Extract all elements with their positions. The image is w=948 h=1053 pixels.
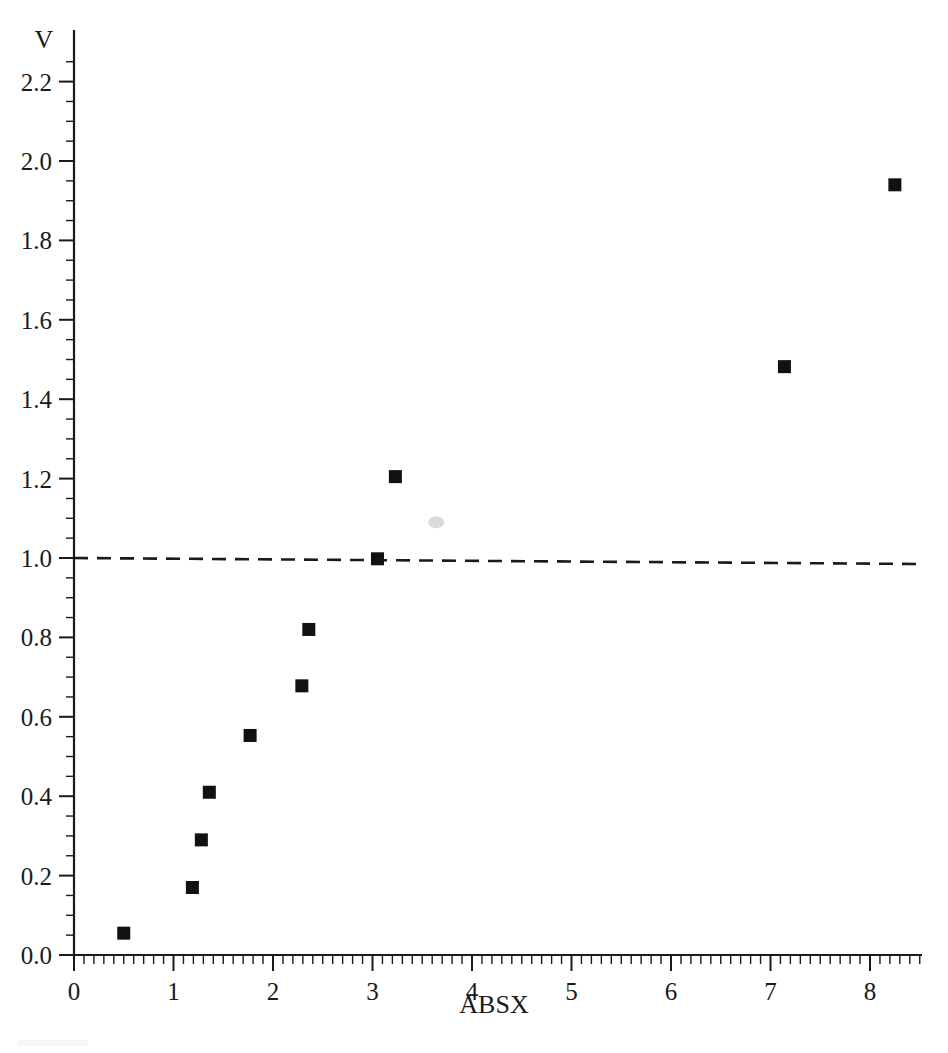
reference-line-1.0 bbox=[74, 558, 922, 564]
scan-smudge bbox=[428, 516, 444, 528]
data-point bbox=[371, 552, 384, 565]
y-tick-label: 2.0 bbox=[21, 148, 52, 175]
data-point bbox=[203, 786, 216, 799]
y-tick-label: 0.2 bbox=[21, 863, 52, 890]
y-tick-label: 0.4 bbox=[21, 783, 53, 810]
data-point bbox=[302, 623, 315, 636]
data-point bbox=[186, 881, 199, 894]
y-tick-label: 0.6 bbox=[21, 704, 52, 731]
plot-canvas: 0.00.20.40.60.81.01.21.41.61.82.02.2 012… bbox=[0, 0, 948, 1053]
x-tick-label: 1 bbox=[167, 978, 180, 1005]
y-tick-label: 1.6 bbox=[21, 307, 52, 334]
scatter-plot-figure: 0.00.20.40.60.81.01.21.41.61.82.02.2 012… bbox=[0, 0, 948, 1053]
x-tick-label: 0 bbox=[68, 978, 81, 1005]
data-point bbox=[244, 729, 257, 742]
y-axis-title: V bbox=[35, 25, 54, 54]
page-edge-artifact bbox=[18, 1040, 88, 1046]
y-tick-label: 1.2 bbox=[21, 466, 52, 493]
x-tick-label: 8 bbox=[864, 978, 877, 1005]
data-point bbox=[888, 178, 901, 191]
y-tick-label: 1.8 bbox=[21, 227, 52, 254]
x-tick-label: 6 bbox=[665, 978, 678, 1005]
data-points bbox=[117, 178, 901, 939]
data-point bbox=[195, 833, 208, 846]
reference-line bbox=[74, 558, 922, 564]
data-point bbox=[295, 679, 308, 692]
x-tick-label: 5 bbox=[565, 978, 578, 1005]
x-tick-label: 2 bbox=[267, 978, 280, 1005]
scan-artifacts bbox=[18, 516, 444, 1046]
y-tick-label: 2.2 bbox=[21, 69, 52, 96]
x-tick-label: 3 bbox=[366, 978, 379, 1005]
x-tick-label: 7 bbox=[764, 978, 777, 1005]
data-point bbox=[778, 360, 791, 373]
y-tick-label: 0.8 bbox=[21, 624, 52, 651]
y-tick-label: 1.0 bbox=[21, 545, 52, 572]
y-tick-label: 1.4 bbox=[21, 386, 53, 413]
y-axis: 0.00.20.40.60.81.01.21.41.61.82.02.2 bbox=[21, 30, 74, 969]
y-tick-label: 0.0 bbox=[21, 942, 52, 969]
x-axis-title: ABSX bbox=[459, 990, 529, 1019]
data-point bbox=[117, 927, 130, 940]
data-point bbox=[389, 470, 402, 483]
